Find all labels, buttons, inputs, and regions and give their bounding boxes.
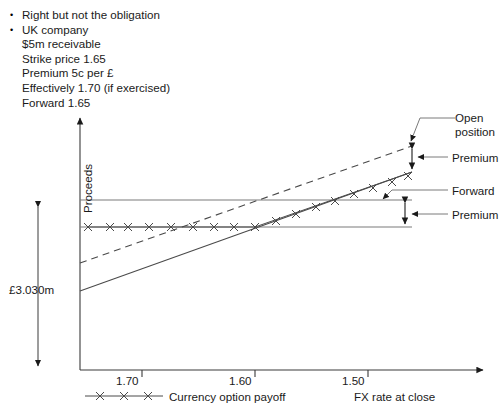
option-payoff-markers [84,172,412,231]
annotation-forward: Forward [452,184,495,197]
x-axis-title: FX rate at close [354,390,435,403]
legend-swatch [85,392,163,400]
chart-canvas [0,0,502,414]
series-open-position [80,146,412,263]
x-tick-label-170: 1.70 [116,374,139,387]
legend-label-currency-option-payoff: Currency option payoff [169,390,285,403]
annotation-proceeds-value: £3.030m [9,283,54,296]
annotation-premium-upper: Premium [452,151,498,164]
forward-leader-line [383,190,448,199]
y-axis-title: Proceeds [81,164,94,213]
x-tick-label-160: 1.60 [229,374,252,387]
annotation-premium-lower: Premium [452,208,498,221]
x-tick-label-150: 1.50 [342,374,365,387]
annotation-open-position-line1: Open [455,111,483,125]
annotation-open-position-line2: position [455,125,495,139]
open-position-leader-line [411,118,455,141]
